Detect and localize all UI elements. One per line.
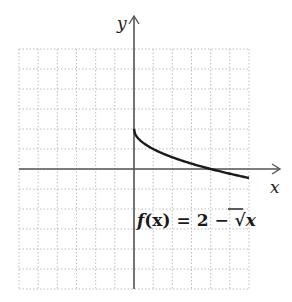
x-axis-label: x [270,177,280,197]
function-graph: y x f(x) = 2 − √x [0,0,292,302]
function-radicand: x [245,210,257,230]
function-label: f(x) = 2 − √x [136,209,257,230]
function-argument: (x) [144,210,170,230]
function-curve [134,129,249,178]
y-axis-label: y [116,13,127,33]
function-expression: = 2 − √ [171,210,247,230]
svg-text:f(x) = 2 − √x: f(x) = 2 − √x [136,210,257,230]
